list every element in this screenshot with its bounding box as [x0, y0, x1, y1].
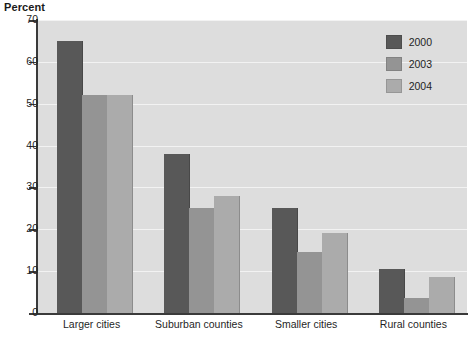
bar	[189, 208, 215, 313]
legend-item-2004[interactable]: 2004	[386, 79, 432, 93]
category-label-suburban-counties: Suburban counties	[145, 318, 252, 330]
bar-chart: Percent 010203040506070 Larger citiesSub…	[0, 0, 473, 337]
category-label-rural-counties: Rural counties	[360, 318, 467, 330]
bar	[57, 41, 83, 313]
legend: 200020032004	[386, 35, 432, 93]
y-tick-label-30: 30	[12, 180, 38, 192]
legend-swatch-icon	[386, 57, 402, 71]
bar	[82, 95, 108, 313]
legend-swatch-icon	[386, 79, 402, 93]
bar	[404, 298, 430, 313]
legend-label: 2000	[409, 37, 432, 48]
y-axis-ticks: 010203040506070	[0, 0, 38, 337]
legend-item-2000[interactable]: 2000	[386, 35, 432, 49]
y-tick-label-70: 70	[12, 13, 38, 25]
category-label-smaller-cities: Smaller cities	[253, 318, 360, 330]
y-tick-label-0: 0	[12, 306, 38, 318]
legend-label: 2004	[409, 81, 432, 92]
bar	[164, 154, 190, 313]
y-tick-label-60: 60	[12, 55, 38, 67]
y-tick-label-50: 50	[12, 97, 38, 109]
y-tick-label-10: 10	[12, 264, 38, 276]
bar	[107, 95, 133, 313]
bar	[272, 208, 298, 313]
legend-item-2003[interactable]: 2003	[386, 57, 432, 71]
gridline-70	[38, 20, 467, 21]
y-tick-label-40: 40	[12, 139, 38, 151]
category-label-larger-cities: Larger cities	[38, 318, 145, 330]
bar	[322, 233, 348, 313]
legend-swatch-icon	[386, 35, 402, 49]
y-tick-label-20: 20	[12, 222, 38, 234]
bar	[379, 269, 405, 313]
bar	[214, 196, 240, 313]
bar	[429, 277, 455, 313]
bar	[297, 252, 323, 313]
legend-label: 2003	[409, 59, 432, 70]
x-axis-line	[36, 313, 468, 315]
